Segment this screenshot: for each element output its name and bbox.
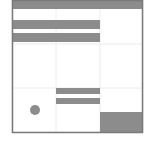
top-bar [12, 0, 143, 9]
bar-row1-a [12, 20, 100, 29]
dot [30, 105, 40, 115]
bar-row3-b [56, 98, 100, 104]
corner-block [100, 112, 143, 132]
grid-diagram [0, 0, 149, 143]
bar-row3-a [56, 88, 100, 94]
bar-row1-b [12, 33, 100, 42]
shapes-layer [12, 0, 143, 132]
